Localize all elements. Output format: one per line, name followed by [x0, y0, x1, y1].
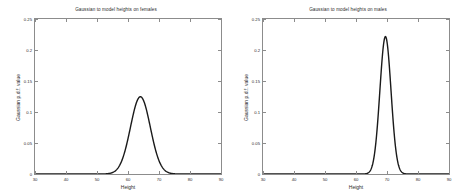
xtick-label: 80	[416, 177, 421, 182]
ytick-mark	[218, 143, 221, 144]
ytick-mark	[263, 50, 266, 51]
xtick-mark	[418, 171, 419, 174]
ytick-mark	[263, 19, 266, 20]
ytick-mark	[35, 81, 38, 82]
ytick-mark	[446, 81, 449, 82]
xtick-mark	[356, 171, 357, 174]
gaussian-curve-males	[263, 37, 449, 174]
xtick-label: 70	[157, 177, 162, 182]
ytick-mark	[446, 143, 449, 144]
curve-area-males	[263, 19, 449, 174]
ytick-label: 0.1	[18, 110, 32, 115]
ytick-mark	[263, 174, 266, 175]
ytick-label: 0.1	[246, 110, 260, 115]
ytick-mark	[446, 174, 449, 175]
xtick-label: 40	[64, 177, 69, 182]
ytick-mark	[35, 50, 38, 51]
ytick-mark	[263, 112, 266, 113]
xaxis-title-males: Height	[349, 184, 363, 190]
ytick-mark	[35, 19, 38, 20]
ytick-mark	[218, 81, 221, 82]
xtick-mark	[294, 171, 295, 174]
ytick-mark	[218, 19, 221, 20]
xtick-mark	[449, 19, 450, 22]
panel-title-females: Gaussian to model heights on females	[0, 7, 232, 12]
xtick-mark	[387, 171, 388, 174]
xtick-label: 90	[219, 177, 224, 182]
xtick-mark	[387, 19, 388, 22]
ytick-mark	[263, 81, 266, 82]
ytick-mark	[446, 19, 449, 20]
xtick-label: 90	[447, 177, 452, 182]
ytick-label: 0	[246, 172, 260, 177]
gaussian-curve-females	[35, 97, 221, 174]
xtick-mark	[190, 171, 191, 174]
ytick-mark	[446, 50, 449, 51]
xtick-mark	[418, 19, 419, 22]
xtick-mark	[97, 171, 98, 174]
xtick-label: 60	[354, 177, 359, 182]
ytick-label: 0.2	[18, 48, 32, 53]
xtick-mark	[66, 171, 67, 174]
xtick-label: 40	[292, 177, 297, 182]
xtick-label: 70	[385, 177, 390, 182]
curve-area-females	[35, 19, 221, 174]
xtick-mark	[128, 19, 129, 22]
xtick-mark	[449, 171, 450, 174]
ytick-mark	[446, 112, 449, 113]
ytick-mark	[35, 174, 38, 175]
xtick-mark	[97, 19, 98, 22]
xtick-label: 30	[261, 177, 266, 182]
xtick-mark	[221, 171, 222, 174]
xtick-label: 60	[126, 177, 131, 182]
ytick-label: 0.05	[18, 141, 32, 146]
ytick-mark	[35, 143, 38, 144]
xtick-mark	[221, 19, 222, 22]
xaxis-title-females: Height	[121, 184, 135, 190]
xtick-label: 50	[95, 177, 100, 182]
ytick-label: 0.15	[246, 79, 260, 84]
ytick-label: 0.2	[246, 48, 260, 53]
ytick-mark	[218, 174, 221, 175]
ytick-mark	[218, 50, 221, 51]
ytick-mark	[35, 112, 38, 113]
ytick-label: 0.25	[18, 17, 32, 22]
xtick-mark	[66, 19, 67, 22]
xtick-mark	[325, 19, 326, 22]
ytick-label: 0.25	[246, 17, 260, 22]
xtick-mark	[159, 171, 160, 174]
panel-title-males: Gaussian to model heights on males	[232, 7, 464, 12]
ytick-mark	[263, 143, 266, 144]
panel-females: Gaussian to model heights on females Hei…	[0, 0, 232, 196]
axes-males	[262, 18, 450, 175]
xtick-label: 30	[33, 177, 38, 182]
xtick-mark	[325, 171, 326, 174]
ytick-label: 0.15	[18, 79, 32, 84]
xtick-label: 80	[188, 177, 193, 182]
ytick-label: 0.05	[246, 141, 260, 146]
ytick-label: 0	[18, 172, 32, 177]
xtick-mark	[294, 19, 295, 22]
xtick-mark	[356, 19, 357, 22]
xtick-mark	[159, 19, 160, 22]
gaussian-figure: Gaussian to model heights on females Hei…	[0, 0, 464, 196]
xtick-mark	[128, 171, 129, 174]
axes-females	[34, 18, 222, 175]
xtick-mark	[190, 19, 191, 22]
panel-males: Gaussian to model heights on males Heigh…	[232, 0, 464, 196]
ytick-mark	[218, 112, 221, 113]
xtick-label: 50	[323, 177, 328, 182]
